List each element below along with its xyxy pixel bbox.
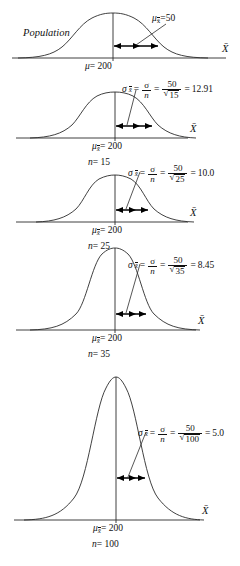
sample-size-label-n35: n= 35 <box>88 350 110 360</box>
mu-subscript: x̄ <box>97 146 100 153</box>
equals-sign: = <box>160 261 165 271</box>
equals-sign: = <box>93 349 98 359</box>
mu-subscript: x̄ <box>97 338 100 345</box>
mean-value: 200 <box>98 61 112 71</box>
sigma-symbol: σ <box>138 429 143 439</box>
fraction-numerator: σ <box>148 165 157 174</box>
equals-sign: = <box>90 61 95 71</box>
sigma-over-root-n: σ n <box>148 165 157 184</box>
figure-root: Population μx̄=50 μ= 200 X̄ <box>0 0 240 566</box>
sd-arrow <box>116 207 148 213</box>
fraction-numerator: 50 <box>184 424 197 433</box>
sampling-mean-label-n100: μx̄= 200 <box>93 524 123 535</box>
mean-value: 200 <box>108 333 122 343</box>
population-title: Population <box>23 28 70 39</box>
distribution-curve <box>24 377 204 520</box>
se-formula-n25: σx̄ = σ n = 50 25 = 10.0 <box>128 164 214 184</box>
panel-n35: σx̄ = σ n = 50 35 = 8.45 <box>0 244 240 364</box>
fraction-denominator: 15 <box>162 89 181 100</box>
se-value: 10.0 <box>198 169 215 179</box>
sigma-over-root-n: σ n <box>142 81 151 100</box>
equals-sign: = <box>100 333 105 343</box>
sigma-subscript: x̄ <box>135 263 138 270</box>
equals-sign: = <box>170 429 175 439</box>
equals-sign: = <box>184 85 189 95</box>
equals-sign: = <box>150 429 155 439</box>
se-value: 12.91 <box>192 85 213 95</box>
fraction-denominator: n <box>158 434 167 444</box>
radicand: 100 <box>184 434 200 444</box>
sd-arrow <box>116 123 152 129</box>
population-curve-svg <box>0 0 240 80</box>
equals-sign: = <box>97 539 102 549</box>
se-formula-n15: σx̄ = σ n = 50 15 = 12.91 <box>122 80 213 100</box>
fraction-denominator: n <box>148 174 157 184</box>
sampling-mean-label-n35: μx̄= 200 <box>92 334 122 345</box>
mu-subscript: x̄ <box>97 230 100 237</box>
radicand: 25 <box>174 174 185 184</box>
mean-value: 200 <box>108 141 122 151</box>
equals-sign: = <box>140 261 145 271</box>
x-axis-label: X̄ <box>222 44 228 55</box>
n-value: 100 <box>104 539 118 549</box>
panel-n25: σx̄ = σ n = 50 25 = 10.0 <box>0 158 240 258</box>
equals-sign: = <box>154 85 159 95</box>
x-axis-label: X̄ <box>190 208 196 219</box>
radicand: 35 <box>174 266 185 276</box>
n-value: 35 <box>100 349 110 359</box>
fraction-denominator: n <box>148 266 157 276</box>
equals-sign: = <box>140 169 145 179</box>
sigma-symbol: σ <box>128 169 133 179</box>
x-axis-label: X̄ <box>202 506 208 517</box>
sd-arrow <box>114 43 158 49</box>
population-sigma-label: μx̄=50 <box>152 14 175 25</box>
x-axis-label: X̄ <box>190 124 196 135</box>
radicand: 15 <box>168 90 179 100</box>
equals-sign: = <box>190 169 195 179</box>
panel-n100: σx̄ = σ n = 50 100 = 5.0 <box>0 370 240 566</box>
sd-arrow <box>117 475 145 481</box>
se-value: 5.0 <box>212 429 224 439</box>
sd-arrow <box>116 311 146 317</box>
fraction-numerator: σ <box>158 425 167 434</box>
sample-size-label-n100: n= 100 <box>92 540 119 550</box>
fraction-denominator: n <box>142 90 151 100</box>
sigma-subscript: x̄ <box>135 171 138 178</box>
sampling-mean-label-n25: μx̄= 200 <box>92 226 122 237</box>
sampling-curve-svg-n100 <box>0 370 240 566</box>
numeric-fraction: 50 100 <box>178 424 202 444</box>
mean-value: 200 <box>108 225 122 235</box>
se-value: 8.45 <box>198 261 215 271</box>
equals-sign: = <box>134 85 139 95</box>
leader-line <box>136 24 166 45</box>
panel-population: Population μx̄=50 μ= 200 X̄ <box>0 0 240 80</box>
equals-sign: = <box>101 523 106 533</box>
x-axis-label: X̄ <box>198 316 204 327</box>
equals-sign: = <box>100 141 105 151</box>
fraction-numerator: σ <box>142 81 151 90</box>
fraction-denominator: 35 <box>168 265 187 276</box>
population-mean-label: μ= 200 <box>85 62 112 72</box>
sigma-symbol: σ <box>122 85 127 95</box>
sigma-value: 50 <box>166 13 176 23</box>
fraction-numerator: σ <box>148 257 157 266</box>
equals-sign: = <box>205 429 210 439</box>
fraction-denominator: 25 <box>168 173 187 184</box>
sigma-subscript: x̄ <box>145 431 148 438</box>
numeric-fraction: 50 35 <box>168 256 187 276</box>
mu-subscript: x̄ <box>98 528 101 535</box>
equals-sign: = <box>160 169 165 179</box>
numeric-fraction: 50 25 <box>168 164 187 184</box>
sigma-over-root-n: σ n <box>158 425 167 444</box>
se-formula-n35: σx̄ = σ n = 50 35 = 8.45 <box>128 256 214 276</box>
se-formula-n100: σx̄ = σ n = 50 100 = 5.0 <box>138 424 224 444</box>
sigma-symbol: σ <box>128 261 133 271</box>
sigma-over-root-n: σ n <box>148 257 157 276</box>
equals-sign: = <box>190 261 195 271</box>
sigma-subscript: x̄ <box>129 87 132 94</box>
fraction-denominator: 100 <box>178 433 202 444</box>
sampling-mean-label-n15: μx̄= 200 <box>92 142 122 153</box>
sigma-subscript: x̄ <box>157 18 161 25</box>
equals-sign: = <box>100 225 105 235</box>
mean-value: 200 <box>109 523 123 533</box>
